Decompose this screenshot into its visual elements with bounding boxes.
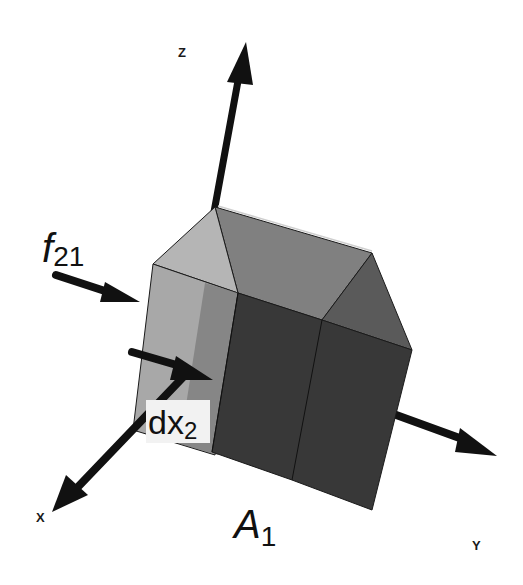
area-subscript: 1 <box>261 521 277 552</box>
area-label: A1 <box>232 502 276 552</box>
length-subscript: 2 <box>184 417 197 444</box>
prism <box>133 206 412 510</box>
force-arrowhead-icon <box>100 282 140 302</box>
x-axis-label: X <box>36 510 45 525</box>
force-subscript: 21 <box>53 241 84 272</box>
area-symbol: A <box>232 502 261 546</box>
y-axis-arrowhead-icon <box>455 428 497 456</box>
z-axis-arrowhead-icon <box>227 42 253 85</box>
z-axis <box>214 42 253 212</box>
force-label: f21 <box>42 226 84 272</box>
z-axis-label: Z <box>178 45 186 60</box>
force-f21-arrow <box>56 275 140 302</box>
length-symbol: dx <box>148 403 184 441</box>
y-axis-label: Y <box>472 538 481 553</box>
control-volume-diagram: Z Y X f21 <box>0 0 523 585</box>
